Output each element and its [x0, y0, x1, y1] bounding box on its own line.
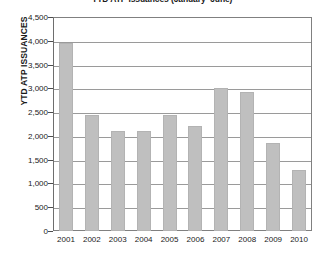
y-tick-label: 2,000 [12, 131, 48, 140]
y-tick-label: 1,500 [12, 155, 48, 164]
x-tick-label: 2006 [187, 235, 205, 244]
bar-chart-figure: YTD ATP Issuances (January–June) YTD ATP… [0, 0, 324, 255]
bar [292, 170, 306, 231]
bar [111, 131, 125, 231]
x-tick-label: 2004 [135, 235, 153, 244]
x-tick-label: 2003 [109, 235, 127, 244]
y-tick-label: 3,500 [12, 60, 48, 69]
y-tick-label: 4,000 [12, 36, 48, 45]
chart-title: YTD ATP Issuances (January–June) [0, 0, 324, 4]
y-tick-label: 4,500 [12, 13, 48, 22]
x-tick-label: 2010 [290, 235, 308, 244]
bar [240, 92, 254, 231]
bar [163, 115, 177, 232]
bar [266, 143, 280, 231]
bar [59, 43, 73, 231]
x-tick-label: 2002 [83, 235, 101, 244]
y-tick-label: 1,000 [12, 179, 48, 188]
bar [188, 126, 202, 231]
x-tick-label: 2007 [212, 235, 230, 244]
y-tick-label: 0 [12, 227, 48, 236]
bar [214, 88, 228, 231]
y-tick-mark [48, 231, 53, 232]
y-tick-label: 3,000 [12, 84, 48, 93]
bar [85, 115, 99, 232]
y-tick-label: 500 [12, 203, 48, 212]
y-tick-label: 2,500 [12, 108, 48, 117]
x-tick-label: 2008 [238, 235, 256, 244]
x-tick-label: 2005 [161, 235, 179, 244]
x-tick-label: 2001 [57, 235, 75, 244]
x-tick-label: 2009 [264, 235, 282, 244]
bar [137, 131, 151, 231]
bars-layer [53, 17, 312, 231]
